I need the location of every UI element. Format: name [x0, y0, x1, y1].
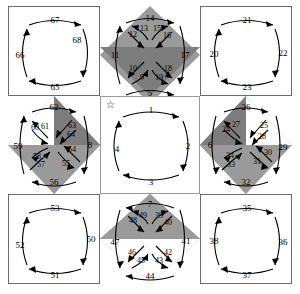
label-right: 17	[181, 51, 190, 60]
label-top: 62	[50, 103, 59, 112]
label-bottom: 51	[51, 271, 60, 280]
label-inner-tr: 16	[163, 32, 171, 40]
label-right: 8	[88, 141, 93, 150]
label-inner-bl: 10	[129, 65, 137, 73]
label-inner-tl2: 13	[140, 25, 148, 33]
label-inner-tr: 64	[67, 131, 75, 139]
label-top: 26	[242, 103, 251, 112]
label-top: 1	[149, 106, 154, 115]
label-top: 14	[146, 14, 155, 23]
label-inner-tr2: 15	[153, 25, 161, 33]
label-inner-br: 42	[164, 249, 172, 257]
label-right: 36	[279, 238, 288, 247]
label-inner-tl: 24	[222, 126, 230, 134]
label-inner-tr: 40	[164, 219, 172, 227]
label-left: 20	[210, 50, 219, 59]
label-right: 22	[279, 49, 288, 58]
top-left-square: 67 68 66 65	[8, 6, 100, 96]
label-right: 50	[87, 235, 96, 244]
label-left: 47	[111, 238, 120, 247]
label-inner-br2: 43	[155, 257, 163, 265]
label-inner-bl: 46	[128, 249, 136, 257]
label-inner-bl2: 45	[137, 257, 145, 265]
label-top: 21	[243, 16, 252, 25]
label-top: 7	[148, 200, 153, 209]
label-bottom: 23	[243, 83, 252, 92]
label-left: 59	[14, 142, 23, 151]
label-inner-tl: 12	[129, 31, 137, 39]
label-inner-tr2: 25	[260, 122, 268, 130]
label-inner-tl: 48	[129, 217, 137, 225]
figure-root: 67 68 66 65	[0, 0, 300, 294]
label-top: 67	[51, 16, 60, 25]
label-inner-tl2: 49	[139, 212, 147, 220]
label-bottom: 44	[146, 272, 155, 281]
label-left: 38	[210, 237, 219, 246]
label-bottom: 5	[148, 89, 153, 97]
label-top: 53	[51, 204, 60, 213]
bottom-left-square: 53 50 52 51	[8, 194, 100, 284]
label-inner-tl: 60	[31, 124, 39, 132]
top-center-star: 14 11 17 5 12 13 15 16 10 9 19 18	[100, 6, 200, 96]
label-inner-br2: 55	[62, 160, 70, 168]
label-bottom: 3	[149, 178, 154, 187]
label-right: 68	[73, 36, 82, 45]
label-inner-bl2: 57	[37, 161, 45, 169]
label-inner-br2: 31	[253, 158, 261, 166]
label-inner-br: 54	[68, 146, 76, 154]
label-inner-bl: 34	[226, 152, 234, 160]
tiling-grid: 67 68 66 65	[8, 6, 292, 284]
label-inner-br2: 19	[155, 74, 163, 82]
label-right: 2	[186, 142, 191, 151]
label-bottom: 37	[243, 271, 252, 280]
bottom-center-star: 7 47 41 44 48 49 39 40 46 45 43 42	[100, 194, 200, 284]
label-top: 35	[243, 204, 252, 213]
label-right: 41	[182, 237, 191, 246]
label-inner-br: 30	[264, 149, 272, 157]
label-left: 52	[16, 241, 25, 250]
center-square: ☆ 1 2 4 3	[100, 96, 200, 194]
label-left: 11	[111, 51, 120, 60]
label-left: 4	[115, 145, 120, 154]
label-inner-tr2: 39	[155, 212, 163, 220]
middle-right-star: 26 6 29 32 24 27 25 28 34 33 31 30	[200, 96, 292, 194]
label-right: 29	[279, 143, 288, 152]
label-bottom: 65	[51, 83, 60, 92]
label-inner-bl2: 33	[227, 161, 235, 169]
middle-left-star: 62 59 8 56 60 61 63 64 58 57 55 54	[8, 96, 100, 194]
label-inner-tr: 28	[258, 133, 266, 141]
label-inner-bl2: 9	[140, 74, 144, 82]
label-inner-tl2: 61	[41, 123, 49, 131]
label-inner-tr2: 63	[68, 122, 76, 130]
top-right-square: 21 22 20 23	[200, 6, 292, 96]
bottom-right-square: 35 36 38 37	[200, 194, 292, 284]
label-bottom: 32	[242, 178, 251, 187]
label-inner-br: 18	[164, 65, 172, 73]
label-left: 6	[208, 141, 213, 150]
label-bottom: 56	[50, 178, 59, 187]
star-icon: ☆	[106, 100, 115, 110]
label-left: 66	[16, 51, 25, 60]
label-inner-tl2: 27	[232, 121, 240, 129]
